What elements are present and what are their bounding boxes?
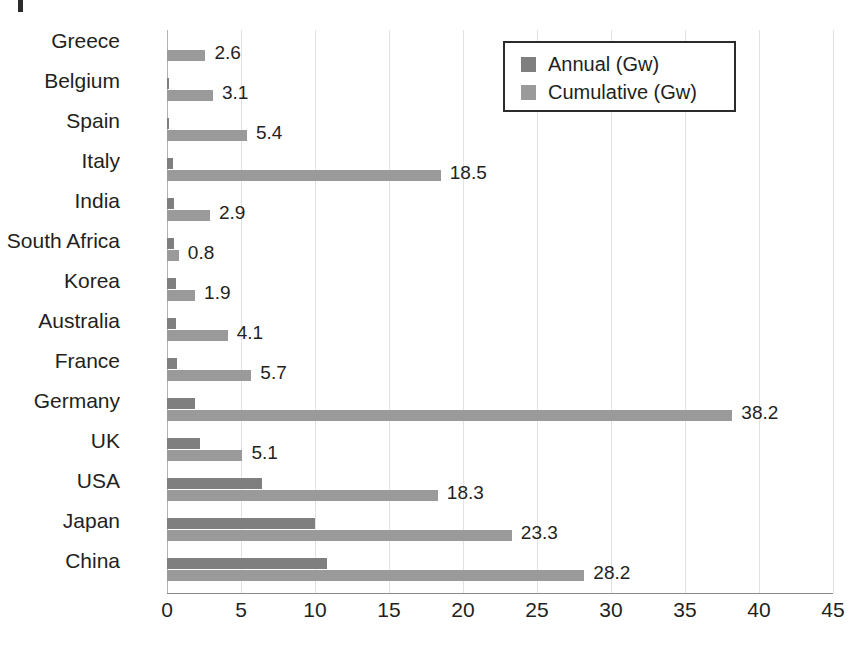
bar-annual: [167, 238, 174, 249]
value-label: 5.4: [256, 123, 282, 142]
x-tick-label: 5: [211, 598, 271, 622]
x-tick-label: 40: [729, 598, 789, 622]
x-tick-label: 0: [137, 598, 197, 622]
bar-cumulative: [167, 170, 441, 181]
value-label: 38.2: [741, 403, 778, 422]
bar-cumulative: [167, 90, 213, 101]
bar-annual: [167, 438, 200, 449]
bar-cumulative: [167, 450, 242, 461]
category-label: Belgium: [0, 70, 120, 91]
category-label: Germany: [0, 390, 120, 411]
bar-cumulative: [167, 250, 179, 261]
legend-item-cumulative: Cumulative (Gw): [505, 78, 734, 106]
category-label: UK: [0, 430, 120, 451]
scan-artifact: [18, 0, 23, 12]
bar-cumulative: [167, 370, 251, 381]
bar-cumulative: [167, 290, 195, 301]
bar-cumulative: [167, 530, 512, 541]
value-label: 5.1: [251, 443, 277, 462]
x-tick-label: 35: [655, 598, 715, 622]
legend-swatch-annual: [521, 57, 536, 72]
category-label: USA: [0, 470, 120, 491]
bar-cumulative: [167, 410, 732, 421]
bar-cumulative: [167, 50, 205, 61]
bar-annual: [167, 318, 176, 329]
value-label: 28.2: [593, 563, 630, 582]
legend-swatch-cumulative: [521, 85, 536, 100]
value-label: 0.8: [188, 243, 214, 262]
bar-cumulative: [167, 570, 584, 581]
bar-annual: [167, 358, 177, 369]
bar-annual: [167, 278, 176, 289]
x-tick-label: 20: [433, 598, 493, 622]
category-label: China: [0, 550, 120, 571]
category-label: Italy: [0, 150, 120, 171]
gridline: [833, 30, 834, 593]
bar-cumulative: [167, 210, 210, 221]
chart-row: Japan23.3: [167, 510, 833, 550]
value-label: 18.3: [447, 483, 484, 502]
category-label: France: [0, 350, 120, 371]
category-label: South Africa: [0, 230, 120, 251]
category-label: India: [0, 190, 120, 211]
chart-row: India2.9: [167, 190, 833, 230]
category-label: Greece: [0, 30, 120, 51]
value-label: 2.6: [214, 43, 240, 62]
x-tick-label: 25: [507, 598, 567, 622]
chart-row: Italy18.5: [167, 150, 833, 190]
category-label: Spain: [0, 110, 120, 131]
chart-row: France5.7: [167, 350, 833, 390]
chart-row: USA18.3: [167, 470, 833, 510]
category-label: Australia: [0, 310, 120, 331]
value-label: 3.1: [222, 83, 248, 102]
chart-row: Germany38.2: [167, 390, 833, 430]
chart-row: UK5.1: [167, 430, 833, 470]
chart-row: Spain5.4: [167, 110, 833, 150]
bar-annual: [167, 558, 327, 569]
bar-cumulative: [167, 490, 438, 501]
chart-row: Australia4.1: [167, 310, 833, 350]
chart-legend: Annual (Gw) Cumulative (Gw): [503, 41, 736, 112]
bar-annual: [167, 198, 174, 209]
bar-chart: Greece2.6Belgium3.1Spain5.4Italy18.5Indi…: [0, 0, 862, 647]
x-axis-line: [167, 593, 833, 594]
legend-label-annual: Annual (Gw): [548, 54, 659, 74]
value-label: 5.7: [260, 363, 286, 382]
x-tick-label: 15: [359, 598, 419, 622]
chart-row: China28.2: [167, 550, 833, 590]
value-label: 1.9: [204, 283, 230, 302]
value-label: 2.9: [219, 203, 245, 222]
value-label: 4.1: [237, 323, 263, 342]
bar-annual: [167, 118, 169, 129]
value-label: 18.5: [450, 163, 487, 182]
x-tick-label: 30: [581, 598, 641, 622]
chart-row: South Africa0.8: [167, 230, 833, 270]
category-label: Japan: [0, 510, 120, 531]
bar-annual: [167, 478, 262, 489]
legend-item-annual: Annual (Gw): [505, 50, 734, 78]
x-tick-label: 45: [803, 598, 862, 622]
x-tick-label: 10: [285, 598, 345, 622]
bar-annual: [167, 518, 315, 529]
plot-area: Greece2.6Belgium3.1Spain5.4Italy18.5Indi…: [167, 30, 833, 593]
bar-cumulative: [167, 130, 247, 141]
bar-annual: [167, 78, 169, 89]
category-label: Korea: [0, 270, 120, 291]
bar-cumulative: [167, 330, 228, 341]
legend-label-cumulative: Cumulative (Gw): [548, 82, 697, 102]
chart-row: Korea1.9: [167, 270, 833, 310]
bar-annual: [167, 398, 195, 409]
bar-annual: [167, 158, 173, 169]
value-label: 23.3: [521, 523, 558, 542]
